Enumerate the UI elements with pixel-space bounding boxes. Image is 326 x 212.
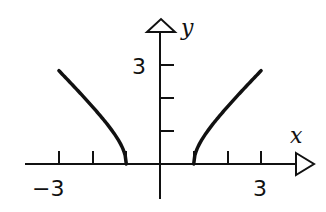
y-ticks (160, 65, 174, 131)
graph: −3 3 3 y x (0, 0, 326, 212)
y-arrow-icon (147, 19, 175, 32)
plot-canvas: −3 3 3 y x (0, 0, 326, 212)
x-tick-label-3: 3 (253, 176, 267, 201)
x-arrow-icon (296, 153, 314, 175)
x-axis-label: x (290, 123, 303, 148)
curve-right-branch (194, 71, 261, 164)
curve-left-branch (59, 71, 126, 164)
y-axis-label: y (180, 15, 194, 40)
y-tick-label-3: 3 (132, 54, 146, 79)
x-tick-label-neg3: −3 (32, 176, 64, 201)
